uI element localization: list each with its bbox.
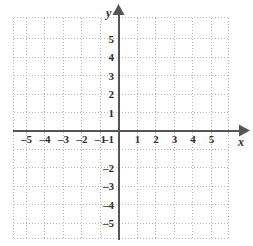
- y-tick-label: –3: [97, 181, 114, 192]
- coordinate-plane-figure: –5 –4 –3 –2 –1 1 2 3 4 5 5 4 3 2 1 –1 –2…: [0, 0, 253, 246]
- y-tick-label: 3: [100, 71, 114, 82]
- x-axis-label: x: [238, 136, 244, 148]
- y-tick-label: 2: [100, 89, 114, 100]
- x-tick-label: –3: [56, 134, 72, 145]
- y-axis-label: y: [106, 7, 111, 19]
- coordinate-plane-canvas: [0, 0, 253, 246]
- x-tick-label: –4: [37, 134, 53, 145]
- y-axis: [113, 4, 125, 240]
- y-tick-label: –5: [97, 218, 114, 229]
- y-axis-arrowhead: [113, 4, 125, 15]
- y-tick-label: –1: [97, 134, 114, 145]
- y-tick-label: –4: [97, 200, 114, 211]
- x-tick-label: 4: [187, 134, 200, 145]
- y-tick-label: 1: [100, 108, 114, 119]
- y-tick-label: –2: [97, 163, 114, 174]
- grid-lines: [14, 18, 229, 239]
- x-tick-label: 1: [131, 134, 144, 145]
- x-tick-label: 5: [205, 134, 218, 145]
- y-tick-label: 4: [100, 52, 114, 63]
- y-tick-label: 5: [100, 34, 114, 45]
- x-tick-label: –5: [19, 134, 35, 145]
- x-tick-label: 3: [168, 134, 181, 145]
- x-tick-label: 2: [150, 134, 163, 145]
- x-tick-label: –2: [74, 134, 90, 145]
